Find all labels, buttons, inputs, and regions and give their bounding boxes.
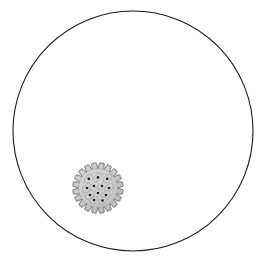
gear-dot bbox=[86, 187, 89, 190]
gear-dot bbox=[108, 187, 111, 190]
gear-dot bbox=[101, 185, 104, 188]
gear-dot bbox=[105, 194, 108, 197]
background-rect bbox=[0, 0, 275, 271]
gear-dot bbox=[93, 199, 96, 202]
gear-dot bbox=[93, 185, 96, 188]
gear-dot bbox=[101, 199, 104, 202]
scene-svg bbox=[0, 0, 275, 271]
gear-dot bbox=[89, 194, 92, 197]
gear-dot bbox=[97, 192, 100, 195]
gear-dot bbox=[106, 177, 109, 180]
gear-dot bbox=[87, 177, 90, 180]
diagram-canvas bbox=[0, 0, 275, 271]
gear-object bbox=[73, 163, 124, 214]
gear-dot bbox=[97, 176, 100, 179]
